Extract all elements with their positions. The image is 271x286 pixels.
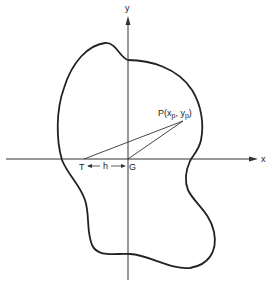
point-p-close: ): [189, 108, 192, 118]
x-axis-label: x: [261, 154, 266, 164]
line-g-to-p: [128, 121, 183, 159]
h-arrow-right-icon: [121, 164, 126, 168]
y-axis-arrow-icon: [126, 16, 131, 25]
shape-diagram: y x P(xp, yp) T h G: [0, 0, 271, 286]
point-t-label: T: [79, 162, 85, 172]
distance-h-label: h: [103, 161, 108, 171]
point-p-mid: , y: [175, 108, 185, 118]
h-arrow-left-icon: [87, 164, 92, 168]
point-p-text: P(x: [158, 108, 172, 118]
body-outline: [58, 43, 215, 268]
y-axis-label: y: [125, 3, 130, 13]
line-t-to-p: [84, 121, 183, 159]
point-g-label: G: [129, 162, 136, 172]
x-axis-arrow-icon: [249, 157, 258, 162]
point-p-label: P(xp, yp): [158, 108, 192, 120]
